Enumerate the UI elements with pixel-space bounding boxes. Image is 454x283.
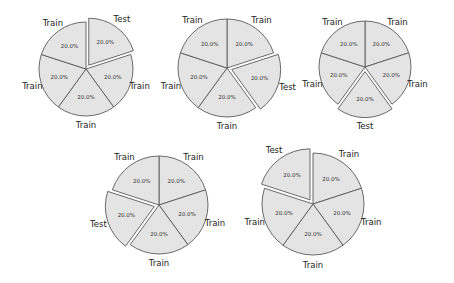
slice-label-train: Train xyxy=(250,15,271,25)
pie-chart-fold-2: 20.0%Train20.0%Test20.0%Train20.0%Train2… xyxy=(160,15,297,131)
slice-percent-label: 20.0% xyxy=(383,72,400,78)
slice-label-train: Train xyxy=(204,218,225,228)
slice-percent-label: 20.0% xyxy=(118,212,135,218)
slice-label-train: Train xyxy=(21,81,42,91)
slice-label-train: Train xyxy=(386,17,407,27)
slice-percent-label: 20.0% xyxy=(104,74,121,80)
slice-label-train: Train xyxy=(244,217,265,227)
slice-percent-label: 20.0% xyxy=(330,72,347,78)
slice-label-train: Train xyxy=(42,18,63,28)
slice-label-train: Train xyxy=(338,149,359,159)
slice-percent-label: 20.0% xyxy=(201,41,218,47)
slice-percent-label: 20.0% xyxy=(333,210,350,216)
slice-label-train: Train xyxy=(113,152,134,162)
slice-label-train: Train xyxy=(75,120,96,130)
slice-label-train: Train xyxy=(321,17,342,27)
slice-label-train: Train xyxy=(301,79,322,89)
slice-label-train: Train xyxy=(406,79,427,89)
slice-label-train: Train xyxy=(181,15,202,25)
slice-label-train: Train xyxy=(302,260,323,270)
slice-percent-label: 20.0% xyxy=(275,210,292,216)
slice-percent-label: 20.0% xyxy=(97,39,114,45)
slice-percent-label: 20.0% xyxy=(168,178,185,184)
slice-percent-label: 20.0% xyxy=(133,178,150,184)
slice-percent-label: 20.0% xyxy=(218,94,235,100)
slice-percent-label: 20.0% xyxy=(61,43,78,49)
slice-percent-label: 20.0% xyxy=(150,231,167,237)
slice-label-train: Train xyxy=(148,258,169,268)
slice-percent-label: 20.0% xyxy=(236,41,253,47)
slice-label-test: Test xyxy=(356,121,374,131)
five-fold-pie-charts: 20.0%Test20.0%Train20.0%Train20.0%Train2… xyxy=(0,0,454,283)
slice-percent-label: 20.0% xyxy=(283,172,300,178)
slice-percent-label: 20.0% xyxy=(322,176,339,182)
pie-chart-fold-1: 20.0%Test20.0%Train20.0%Train20.0%Train2… xyxy=(21,14,150,130)
slice-percent-label: 20.0% xyxy=(356,96,373,102)
pie-chart-fold-4: 20.0%Train20.0%Train20.0%Train20.0%Test2… xyxy=(89,152,225,268)
slice-percent-label: 20.0% xyxy=(251,75,268,81)
slice-percent-label: 20.0% xyxy=(372,41,389,47)
slice-percent-label: 20.0% xyxy=(340,41,357,47)
slice-label-test: Test xyxy=(113,14,131,24)
slice-percent-label: 20.0% xyxy=(178,211,195,217)
pie-chart-fold-5: 20.0%Train20.0%Train20.0%Train20.0%Train… xyxy=(244,145,382,270)
slice-percent-label: 20.0% xyxy=(304,231,321,237)
slice-label-test: Test xyxy=(89,219,107,229)
slice-label-train: Train xyxy=(360,217,381,227)
pie-chart-fold-3: 20.0%Train20.0%Train20.0%Test20.0%Train2… xyxy=(301,17,427,131)
slice-label-test: Test xyxy=(265,145,283,155)
slice-label-train: Train xyxy=(182,152,203,162)
slice-label-test: Test xyxy=(278,82,296,92)
slice-label-train: Train xyxy=(160,81,181,91)
slice-percent-label: 20.0% xyxy=(77,94,94,100)
slice-percent-label: 20.0% xyxy=(190,74,207,80)
slice-label-train: Train xyxy=(216,121,237,131)
slice-percent-label: 20.0% xyxy=(50,74,67,80)
slice-label-train: Train xyxy=(128,81,149,91)
